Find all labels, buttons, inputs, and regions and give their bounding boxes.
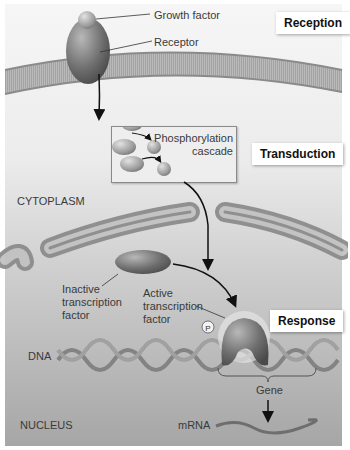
growth-factor-molecule <box>78 11 96 29</box>
stage-response: Response <box>270 310 343 332</box>
active-tf-line1: Active <box>143 287 173 299</box>
phosphorylation-label: Phosphorylation <box>154 132 233 144</box>
inactive-tf-line1: Inactive <box>62 283 100 295</box>
active-tf-line3: factor <box>143 313 171 325</box>
nucleus-label: NUCLEUS <box>20 419 73 431</box>
dna-label: DNA <box>28 350 51 362</box>
active-tf-line2: transcription <box>143 300 203 312</box>
inactive-tf-line3: factor <box>62 309 90 321</box>
mrna-label: mRNA <box>178 419 210 431</box>
inactive-tf-line2: transcription <box>62 296 122 308</box>
cascade-label: cascade <box>192 145 233 157</box>
phosphorylation-cascade-box: Phosphorylation cascade <box>111 126 237 183</box>
gene-label: Gene <box>256 384 283 396</box>
stage-transduction: Transduction <box>252 143 343 165</box>
cytoplasm-label: CYTOPLASM <box>17 195 85 207</box>
growth-factor-label: Growth factor <box>154 9 220 21</box>
stage-reception: Reception <box>276 12 350 34</box>
receptor-label: Receptor <box>154 36 199 48</box>
